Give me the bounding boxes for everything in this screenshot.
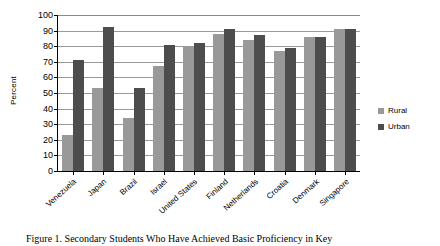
legend-item-rural[interactable]: Rural	[378, 106, 410, 115]
ytick-label-20: 20	[43, 135, 53, 145]
bar-group-finland	[209, 15, 239, 171]
xlabel-slot-singapore: Singapore	[330, 174, 360, 222]
xlabel-venezuela: Venezuela	[44, 177, 78, 209]
xlabel-brazil: Brazil	[118, 177, 139, 197]
ytick-label-40: 40	[43, 104, 53, 114]
bar-group-united-states	[179, 15, 209, 171]
bar-group-denmark	[300, 15, 330, 171]
xlabel-israel: Israel	[148, 177, 169, 197]
ytick-label-80: 80	[43, 41, 53, 51]
chart-legend: Rural Urban	[378, 106, 410, 138]
bar-group-venezuela	[58, 15, 88, 171]
bar-group-singapore	[330, 15, 360, 171]
xlabel-slot-united-states: United States	[178, 174, 208, 222]
ytick-label-70: 70	[43, 57, 53, 67]
legend-swatch-rural-icon	[378, 108, 384, 114]
ytick-label-60: 60	[43, 72, 53, 82]
bar-israel-urban[interactable]	[164, 45, 175, 171]
bar-denmark-rural[interactable]	[304, 37, 315, 171]
legend-swatch-urban-icon	[378, 124, 384, 130]
ytick-label-0: 0	[48, 166, 53, 176]
plot-area: 100 90 80 70 60 50 40	[57, 15, 360, 172]
bar-united-states-urban[interactable]	[194, 43, 205, 171]
bar-finland-urban[interactable]	[224, 29, 235, 171]
bar-chart: Percent 100 90 80 70 60	[0, 0, 440, 222]
bar-netherlands-rural[interactable]	[243, 40, 254, 171]
figure-container: Percent 100 90 80 70 60	[0, 0, 440, 246]
bar-brazil-urban[interactable]	[134, 88, 145, 171]
bar-brazil-rural[interactable]	[123, 118, 134, 171]
legend-label-urban: Urban	[388, 122, 410, 131]
legend-item-urban[interactable]: Urban	[378, 122, 410, 131]
bar-singapore-rural[interactable]	[334, 29, 345, 171]
ytick-mark-0	[54, 171, 58, 172]
bar-japan-rural[interactable]	[92, 88, 103, 171]
ytick-label-50: 50	[43, 88, 53, 98]
xlabel-slot-brazil: Brazil	[118, 174, 148, 222]
legend-label-rural: Rural	[388, 106, 407, 115]
bar-venezuela-rural[interactable]	[62, 135, 73, 171]
bar-singapore-urban[interactable]	[345, 29, 356, 171]
bar-venezuela-urban[interactable]	[73, 60, 84, 171]
bar-netherlands-urban[interactable]	[254, 35, 265, 171]
figure-caption: Figure 1. Secondary Students Who Have Ac…	[26, 232, 426, 246]
bars-layer	[58, 15, 360, 171]
ytick-label-90: 90	[43, 26, 53, 36]
xlabel-slot-venezuela: Venezuela	[57, 174, 87, 222]
bar-finland-rural[interactable]	[213, 34, 224, 171]
y-axis-title: Percent	[9, 56, 18, 126]
bar-group-japan	[88, 15, 118, 171]
ytick-label-10: 10	[43, 150, 53, 160]
ytick-label-30: 30	[43, 119, 53, 129]
xlabel-japan: Japan	[86, 177, 108, 198]
bar-israel-rural[interactable]	[153, 66, 164, 171]
bar-croatia-rural[interactable]	[274, 51, 285, 171]
xlabel-finland: Finland	[204, 177, 230, 201]
bar-united-states-rural[interactable]	[183, 46, 194, 171]
bar-japan-urban[interactable]	[103, 27, 114, 171]
xlabel-slot-japan: Japan	[87, 174, 117, 222]
bar-group-brazil	[118, 15, 148, 171]
xlabel-croatia: Croatia	[265, 177, 290, 201]
bar-denmark-urban[interactable]	[315, 37, 326, 171]
ytick-label-100: 100	[38, 10, 53, 20]
bar-group-israel	[149, 15, 179, 171]
xlabel-slot-netherlands: Netherlands	[239, 174, 269, 222]
x-axis-labels: Venezuela Japan Brazil Israel United Sta…	[57, 174, 360, 222]
bar-group-netherlands	[239, 15, 269, 171]
bar-croatia-urban[interactable]	[285, 48, 296, 171]
bar-group-croatia	[269, 15, 299, 171]
